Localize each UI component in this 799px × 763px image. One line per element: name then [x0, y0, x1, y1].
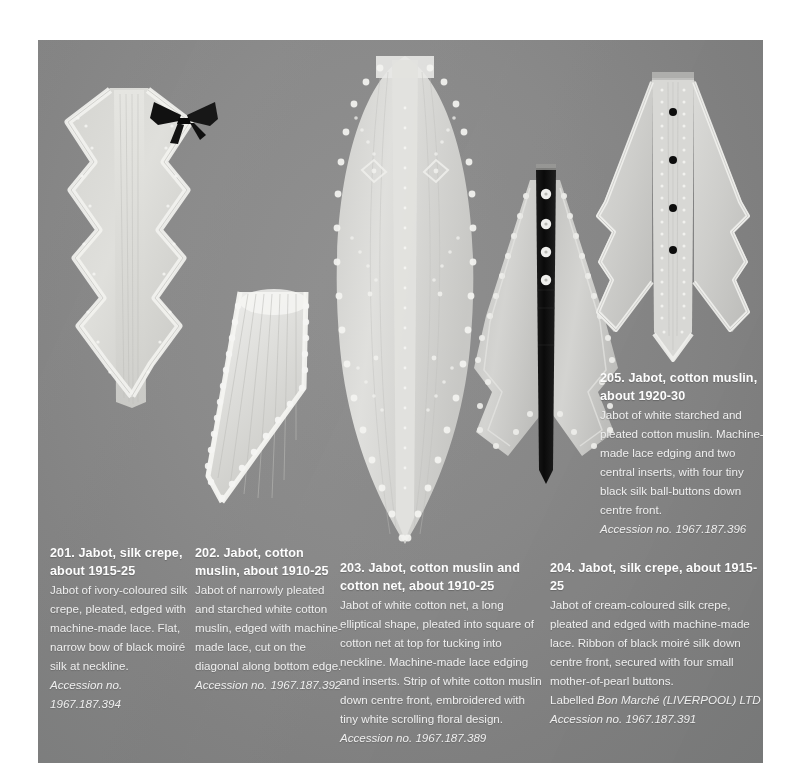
caption-204: 204. Jabot, silk crepe, about 1915-25 Ja…	[550, 560, 762, 728]
bow-drawing	[148, 98, 220, 146]
caption-201: 201. Jabot, silk crepe, about 1915-25 Ja…	[50, 545, 190, 713]
caption-204-label-prefix: Labelled	[550, 693, 597, 706]
caption-202: 202. Jabot, cotton muslin, about 1910-25…	[195, 545, 343, 694]
caption-201-body: Jabot of ivory-coloured silk crepe, plea…	[50, 580, 190, 675]
caption-203-title: 203. Jabot, cotton muslin and cotton net…	[340, 560, 545, 595]
black-moire-bow-icon	[148, 98, 220, 146]
page-root: 205. Jabot, cotton muslin, about 1920-30…	[0, 0, 799, 763]
caption-204-label-maker: Bon Marché (LIVERPOOL) LTD	[597, 693, 760, 706]
caption-201-title: 201. Jabot, silk crepe, about 1915-25	[50, 545, 190, 580]
caption-202-accession: Accession no. 1967.187.392	[195, 675, 343, 694]
photograph-plate: 205. Jabot, cotton muslin, about 1920-30…	[38, 40, 763, 763]
artefact-205	[590, 50, 763, 390]
caption-203-body: Jabot of white cotton net, a long ellipt…	[340, 595, 545, 728]
caption-205-accession: Accession no. 1967.187.396	[600, 519, 763, 538]
caption-204-body: Jabot of cream-coloured silk crepe, plea…	[550, 595, 762, 690]
caption-205-body: Jabot of white starched and pleated cott…	[600, 405, 763, 519]
caption-203: 203. Jabot, cotton muslin and cotton net…	[340, 560, 545, 747]
caption-205-title: 205. Jabot, cotton muslin, about 1920-30	[600, 370, 763, 405]
caption-202-title: 202. Jabot, cotton muslin, about 1910-25	[195, 545, 343, 580]
artefact-205-drawing	[590, 50, 763, 390]
caption-205: 205. Jabot, cotton muslin, about 1920-30…	[600, 370, 763, 538]
caption-204-title: 204. Jabot, silk crepe, about 1915-25	[550, 560, 762, 595]
caption-201-accession: Accession no. 1967.187.394	[50, 675, 190, 713]
caption-203-accession: Accession no. 1967.187.389	[340, 728, 545, 747]
caption-204-label: Labelled Bon Marché (LIVERPOOL) LTD	[550, 690, 762, 709]
caption-204-accession: Accession no. 1967.187.391	[550, 709, 762, 728]
caption-202-body: Jabot of narrowly pleated and starched w…	[195, 580, 343, 675]
